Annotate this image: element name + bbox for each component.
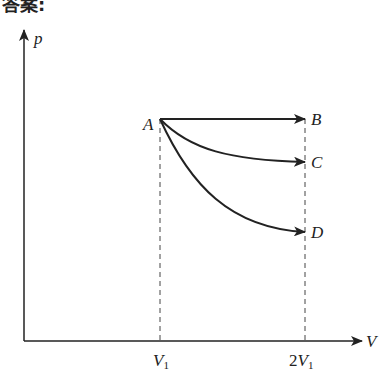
x-axis-label: V — [366, 332, 379, 351]
process-a-c — [160, 119, 305, 162]
point-d-label: D — [310, 223, 324, 242]
point-c-label: C — [311, 153, 323, 172]
pv-diagram: p V V1 2V1 A B C D — [0, 0, 392, 373]
tick-v1: V1 — [153, 351, 169, 371]
y-axis-label: p — [33, 29, 43, 48]
point-a-label: A — [142, 115, 154, 134]
point-b-label: B — [311, 110, 322, 129]
tick-2v1: 2V1 — [289, 351, 313, 371]
